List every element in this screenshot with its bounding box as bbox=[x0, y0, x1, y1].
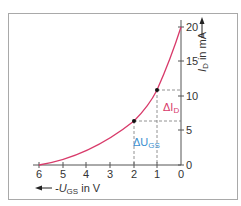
point-1v bbox=[155, 88, 159, 92]
y-tick-20: 20 bbox=[186, 21, 198, 33]
chart-svg: 0 5 10 15 20 6 5 4 3 2 1 0 ΔID ΔUGS ID i… bbox=[0, 0, 241, 206]
x-tick-4: 4 bbox=[83, 168, 89, 180]
x-tick-5: 5 bbox=[60, 168, 66, 180]
x-tick-1: 1 bbox=[154, 168, 160, 180]
x-tick-2: 2 bbox=[131, 168, 137, 180]
x-tick-6: 6 bbox=[36, 168, 42, 180]
x-axis-title: -UGS in V bbox=[55, 182, 101, 196]
x-tick-3: 3 bbox=[107, 168, 113, 180]
y-tick-10: 10 bbox=[186, 90, 198, 102]
x-axis-arrow-icon bbox=[35, 186, 52, 191]
x-tick-0: 0 bbox=[178, 168, 184, 180]
delta-id-label: ΔID bbox=[163, 101, 179, 115]
y-tick-0: 0 bbox=[186, 159, 192, 171]
guide-lines bbox=[134, 90, 181, 165]
delta-ugs-label: ΔUGS bbox=[133, 136, 160, 150]
y-tick-5: 5 bbox=[186, 124, 192, 136]
point-2v bbox=[132, 119, 136, 123]
